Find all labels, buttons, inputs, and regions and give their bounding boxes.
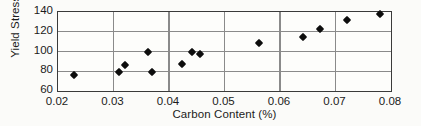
x-axis-tick-label: 0.08 [368, 95, 412, 107]
data-point [299, 32, 307, 40]
x-axis-tick-label: 0.02 [35, 95, 79, 107]
plot-area [57, 11, 392, 92]
data-point [178, 60, 186, 68]
y-axis-tick-label: 100 [27, 45, 53, 56]
gridline-vertical [335, 12, 336, 91]
y-axis-tick-label: 120 [27, 25, 53, 36]
gridline-vertical [224, 12, 225, 91]
y-axis-tick-label: 60 [27, 84, 53, 95]
data-point [69, 71, 77, 79]
data-point [120, 61, 128, 69]
data-point [115, 68, 123, 76]
data-point [343, 16, 351, 24]
x-axis-title: Carbon Content (%) [57, 108, 392, 120]
x-axis-tick-labels: 0.020.030.040.050.060.070.08 [57, 95, 392, 109]
scatter-plot-figure: Yield Stress (ksi) 1401201008060 0.020.0… [0, 0, 421, 126]
gridline-vertical [168, 12, 169, 91]
data-point [188, 47, 196, 55]
x-axis-tick-label: 0.07 [313, 95, 357, 107]
data-point [148, 67, 156, 75]
y-axis-tick-label: 140 [27, 5, 53, 16]
x-axis-tick-label: 0.03 [91, 95, 135, 107]
data-point [195, 50, 203, 58]
data-point [144, 48, 152, 56]
x-axis-tick-label: 0.06 [257, 95, 301, 107]
y-axis-tick-label: 80 [27, 64, 53, 75]
x-axis-tick-label: 0.05 [202, 95, 246, 107]
data-point [255, 38, 263, 46]
y-axis-title: Yield Stress (ksi) [9, 0, 23, 60]
x-axis-tick-label: 0.04 [146, 95, 190, 107]
gridline-vertical [279, 12, 280, 91]
data-point [376, 10, 384, 18]
gridline-vertical [113, 12, 114, 91]
y-axis-tick-labels: 1401201008060 [22, 11, 53, 92]
